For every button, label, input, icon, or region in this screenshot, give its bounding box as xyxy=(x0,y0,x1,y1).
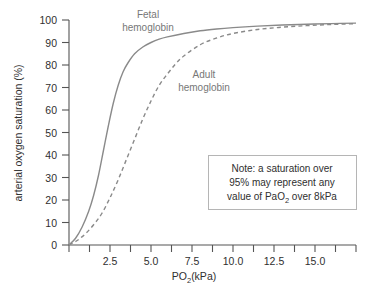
x-tick-label: 7.5 xyxy=(185,255,200,267)
note-line-1: Note: a saturation over xyxy=(231,163,333,174)
x-axis-title-main: PO xyxy=(172,270,187,282)
x-tick-label: 10.0 xyxy=(223,255,244,267)
y-tick-label: 80 xyxy=(45,59,57,71)
y-tick-label: 40 xyxy=(45,149,57,161)
x-tick-label: 5.0 xyxy=(144,255,159,267)
y-tick-label: 20 xyxy=(45,194,57,206)
oxygen-dissociation-chart: 100 90 80 70 60 50 40 30 20 10 0 2.5 5.0… xyxy=(0,0,372,292)
x-axis-title-unit: (kPa) xyxy=(191,270,216,282)
x-tick-label: 2.5 xyxy=(103,255,118,267)
note-box: Note: a saturation over 95% may represen… xyxy=(209,156,357,210)
y-tick-label: 0 xyxy=(51,239,57,251)
note-line-3-pre: value of PaO xyxy=(227,191,285,202)
x-tick-label: 15.0 xyxy=(305,255,326,267)
fetal-label-line1: Fetal xyxy=(137,9,159,20)
note-line-3-post: over 8kPa xyxy=(289,191,337,202)
y-tick-label: 30 xyxy=(45,172,57,184)
y-tick-label: 10 xyxy=(45,217,57,229)
y-tick-label: 90 xyxy=(45,37,57,49)
y-axis-title: arterial oxygen saturation (%) xyxy=(12,64,24,201)
y-tick-label: 60 xyxy=(45,104,57,116)
fetal-label-line2: hemoglobin xyxy=(122,22,174,33)
y-tick-label: 70 xyxy=(45,82,57,94)
x-tick-label: 12.5 xyxy=(264,255,285,267)
note-line-2: 95% may represent any xyxy=(229,177,335,188)
adult-label-line2: hemoglobin xyxy=(178,82,230,93)
y-tick-label: 50 xyxy=(45,127,57,139)
y-tick-label: 100 xyxy=(39,14,57,26)
adult-label-line1: Adult xyxy=(193,69,216,80)
